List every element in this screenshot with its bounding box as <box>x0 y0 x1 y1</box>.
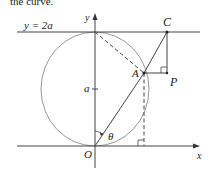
angle-arrow-icon <box>100 132 104 136</box>
right-angle-mark-foot <box>138 140 144 146</box>
point-C <box>165 30 168 33</box>
x-axis-arrow-icon <box>193 144 200 149</box>
header-fragment: the curve. <box>10 0 54 7</box>
label-x-axis: x <box>196 150 202 161</box>
point-P <box>166 72 168 74</box>
label-A: A <box>131 67 139 79</box>
line-OA <box>95 73 144 146</box>
label-theta: θ <box>108 130 114 142</box>
label-y-axis: y <box>84 12 90 23</box>
label-origin: O <box>84 148 92 160</box>
label-C: C <box>163 15 172 29</box>
label-a: a <box>84 82 90 94</box>
point-A <box>142 71 145 74</box>
label-line-y-2a: y = 2a <box>23 19 53 31</box>
y-axis-arrow-icon <box>93 13 98 20</box>
right-angle-mark-P <box>161 67 167 73</box>
label-P: P <box>169 75 178 89</box>
diagram-canvas: the curve. y = 2a y x O A C P a θ <box>0 0 211 169</box>
